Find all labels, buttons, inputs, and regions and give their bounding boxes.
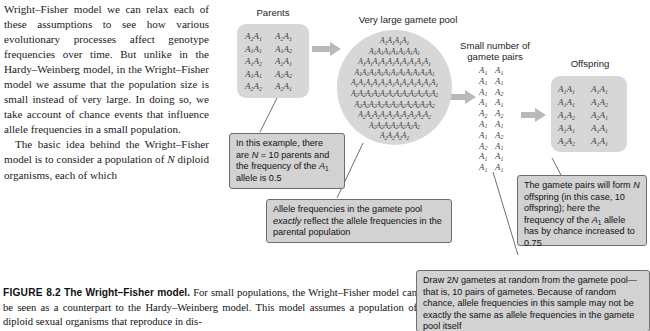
gamete-cell: A1 — [479, 151, 495, 162]
gamete-cell: A2 — [495, 108, 511, 119]
genotype-cell: A1A2 — [558, 109, 591, 122]
gamete-pair-row: A1A2 — [479, 87, 523, 98]
figure-page: Wright–Fisher model we can relax each of… — [0, 0, 650, 331]
gamete-pair-row: A2A1 — [479, 141, 523, 152]
gamete-pairs-list: A1A1A1A1A1A2A1A1A2A2A1A1A1A2A2A1A1A1A1A1 — [479, 65, 523, 173]
gamete-cell: A1 — [479, 162, 495, 173]
gamete-cell: A1 — [479, 87, 495, 98]
gamete-pool-row: A2A2A2A2A2A2A2A2A2A2A2 — [337, 100, 452, 111]
offspring-row: A1A2A2A1 — [558, 109, 624, 122]
gamete-pair-row: A1A1 — [479, 119, 523, 130]
gamete-cell: A1 — [479, 119, 495, 130]
gamete-pool-row: A2A2A2A2 — [337, 131, 452, 142]
genotype-cell: A1A1 — [591, 135, 624, 148]
genotype-cell: A2A2 — [558, 135, 591, 148]
parents-genotype-list: A2A1A2A1A1A1A1A2A1A2A2A1A1A1A2A2A2A2A2A1 — [245, 30, 307, 93]
gamete-cell: A1 — [495, 119, 511, 130]
gamete-pool-row: A1A1A1A1A1A1A1A1A1A1A1 — [337, 68, 452, 79]
gamete-cell: A1 — [495, 141, 511, 152]
genotype-cell: A1A1 — [245, 68, 275, 81]
gamete-pair-row: A1A1 — [479, 76, 523, 87]
gamete-pool-row: A2A2A2A2A2A2A2A2A2A2A2A2 — [337, 89, 452, 100]
gamete-cell: A2 — [495, 130, 511, 141]
gamete-pair-row: A1A1 — [479, 97, 523, 108]
callout-parents-note-text: In this example, there are N = 10 parent… — [236, 138, 329, 183]
gamete-pool-row: A1A1A1A1 — [337, 36, 452, 47]
gamete-pairs-label-line2: gamete pairs — [443, 51, 547, 62]
offspring-row: A2A2A1A1 — [558, 135, 624, 148]
gamete-pool-label: Very large gamete pool — [340, 14, 476, 25]
genotype-cell: A1A2 — [245, 55, 275, 68]
parents-row: A1A1A2A2 — [245, 68, 307, 81]
offspring-genotype-list: A1A1A1A1A1A1A1A2A1A2A2A1A1A1A1A1A2A2A1A1 — [558, 83, 624, 148]
gamete-cell: A1 — [479, 130, 495, 141]
parents-row: A1A1A1A2 — [245, 43, 307, 56]
callout-sampling-note-text: Draw 2N gametes at random from the gamet… — [423, 275, 637, 331]
offspring-row: A1A1A1A2 — [558, 96, 624, 109]
parents-row: A1A2A2A1 — [245, 55, 307, 68]
callout-offspring-note: The gamete pairs will form N offspring (… — [517, 175, 647, 246]
genotype-cell: A1A2 — [275, 43, 305, 56]
gamete-cell: A1 — [479, 97, 495, 108]
leader-parents-callout — [260, 98, 277, 132]
parents-row: A2A2A2A1 — [245, 80, 307, 93]
genotype-cell: A1A1 — [558, 96, 591, 109]
gamete-cell: A1 — [495, 162, 511, 173]
genotype-cell: A1A1 — [591, 83, 624, 96]
gamete-cell: A2 — [479, 108, 495, 119]
leader-sampling-callout — [493, 172, 518, 255]
gamete-cell: A2 — [479, 141, 495, 152]
gamete-pool-row: A2A2A2A2A2A2A2 — [337, 121, 452, 132]
gamete-cell: A1 — [479, 76, 495, 87]
gamete-cell: A1 — [495, 151, 511, 162]
wright-fisher-diagram: Parents A2A1A2A1A1A1A1A2A1A2A2A1A1A1A2A2… — [0, 0, 650, 331]
gamete-pair-row: A1A1 — [479, 65, 523, 76]
gamete-cell: A2 — [495, 87, 511, 98]
genotype-cell: A2A1 — [275, 55, 305, 68]
callout-pool-note: Allele frequencies in the gamete pool ex… — [266, 199, 452, 243]
leader-offspring-callout — [552, 158, 561, 175]
offspring-row: A1A1A1A1 — [558, 83, 624, 96]
genotype-cell: A1A1 — [558, 122, 591, 135]
genotype-cell: A2A1 — [275, 30, 305, 43]
gamete-cell: A1 — [495, 97, 511, 108]
genotype-cell: A1A1 — [591, 122, 624, 135]
genotype-cell: A2A2 — [245, 80, 275, 93]
gamete-pairs-label-line1: Small number of — [443, 40, 547, 51]
callout-sampling-note: Draw 2N gametes at random from the gamet… — [416, 270, 650, 331]
gamete-pool-row: A1A1A1A1A1A1A1A1A1A1A1A1 — [337, 78, 452, 89]
gamete-pool-allele-rows: A1A1A1A1A1A1A1A1A1A1A1A1A1A1A1A1A1A1A1A1… — [337, 36, 452, 142]
callout-parents-note: In this example, there are N = 10 parent… — [229, 133, 345, 189]
genotype-cell: A1A2 — [591, 96, 624, 109]
gamete-pair-row: A2A2 — [479, 108, 523, 119]
gamete-pool-row: A2A2A2A2A2A2A2A2A2A2 — [337, 110, 452, 121]
parents-label: Parents — [240, 7, 306, 18]
genotype-cell: A2A2 — [275, 68, 305, 81]
genotype-cell: A2A1 — [275, 80, 305, 93]
genotype-cell: A1A1 — [558, 83, 591, 96]
arrow-pool-to-gametepairs — [449, 90, 476, 104]
genotype-cell: A1A1 — [245, 43, 275, 56]
gamete-pool-row: A1A1A1A1A1A1A1 — [337, 47, 452, 58]
offspring-label: Offspring — [555, 58, 625, 69]
gamete-pool-row: A1A1A1A1A1A1A1A1A1A1 — [337, 57, 452, 68]
genotype-cell: A2A1 — [245, 30, 275, 43]
gamete-cell: A1 — [495, 76, 511, 87]
callout-pool-note-text: Allele frequencies in the gamete pool ex… — [273, 204, 442, 237]
offspring-row: A1A1A1A1 — [558, 122, 624, 135]
gamete-cell: A1 — [479, 65, 495, 76]
callout-offspring-note-text: The gamete pairs will form N offspring (… — [524, 180, 640, 248]
gamete-cell: A1 — [495, 65, 511, 76]
parents-row: A2A1A2A1 — [245, 30, 307, 43]
genotype-cell: A2A1 — [591, 109, 624, 122]
gamete-pair-row: A1A1 — [479, 151, 523, 162]
arrow-gametepairs-to-offspring — [521, 108, 546, 122]
gamete-pair-row: A1A1 — [479, 162, 523, 173]
gamete-pair-row: A1A2 — [479, 130, 523, 141]
